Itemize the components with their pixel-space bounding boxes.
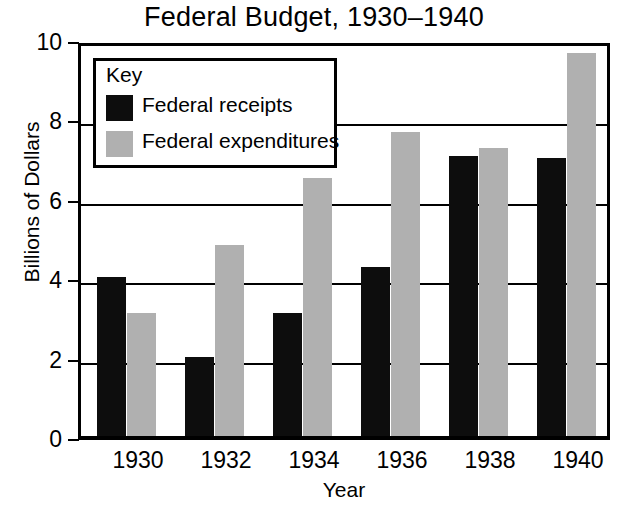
x-tick-label: 1930 bbox=[96, 447, 180, 474]
gridline bbox=[81, 204, 607, 206]
legend-label: Federal receipts bbox=[142, 93, 293, 117]
y-tick-label: 10 bbox=[2, 31, 62, 54]
legend-box: Key Federal receiptsFederal expenditures bbox=[93, 58, 337, 168]
y-tick-label: 4 bbox=[2, 269, 62, 292]
bar-1940-receipts bbox=[537, 158, 566, 436]
bar-1932-expenditures bbox=[215, 245, 244, 436]
bar-1936-receipts bbox=[361, 267, 390, 436]
legend-swatch-receipts bbox=[106, 95, 133, 121]
bar-chart-figure: Federal Budget, 1930–1940 Billions of Do… bbox=[0, 0, 628, 512]
gridline bbox=[81, 363, 607, 365]
y-tick-label: 6 bbox=[2, 190, 62, 213]
bar-1934-receipts bbox=[273, 313, 302, 436]
x-tick-label: 1936 bbox=[360, 447, 444, 474]
bar-1930-receipts bbox=[97, 277, 126, 436]
y-tick-label: 2 bbox=[2, 349, 62, 372]
bar-1934-expenditures bbox=[303, 178, 332, 436]
x-tick-label: 1940 bbox=[536, 447, 620, 474]
bar-1930-expenditures bbox=[127, 313, 156, 436]
x-tick-label: 1934 bbox=[272, 447, 356, 474]
x-axis-title: Year bbox=[78, 478, 610, 502]
gridline bbox=[81, 283, 607, 285]
chart-title: Federal Budget, 1930–1940 bbox=[0, 2, 628, 33]
bar-1936-expenditures bbox=[391, 132, 420, 436]
bar-1940-expenditures bbox=[567, 53, 596, 436]
bar-1932-receipts bbox=[185, 357, 214, 436]
y-tick-label: 0 bbox=[2, 428, 62, 451]
bar-1938-expenditures bbox=[479, 148, 508, 436]
y-tick-label: 8 bbox=[2, 110, 62, 133]
plot-area: Key Federal receiptsFederal expenditures bbox=[78, 43, 610, 440]
bar-1938-receipts bbox=[449, 156, 478, 436]
x-tick-label: 1932 bbox=[184, 447, 268, 474]
legend-title: Key bbox=[106, 63, 142, 87]
x-tick-label: 1938 bbox=[448, 447, 532, 474]
legend-label: Federal expenditures bbox=[142, 129, 339, 153]
legend-swatch-expenditures bbox=[106, 131, 133, 157]
